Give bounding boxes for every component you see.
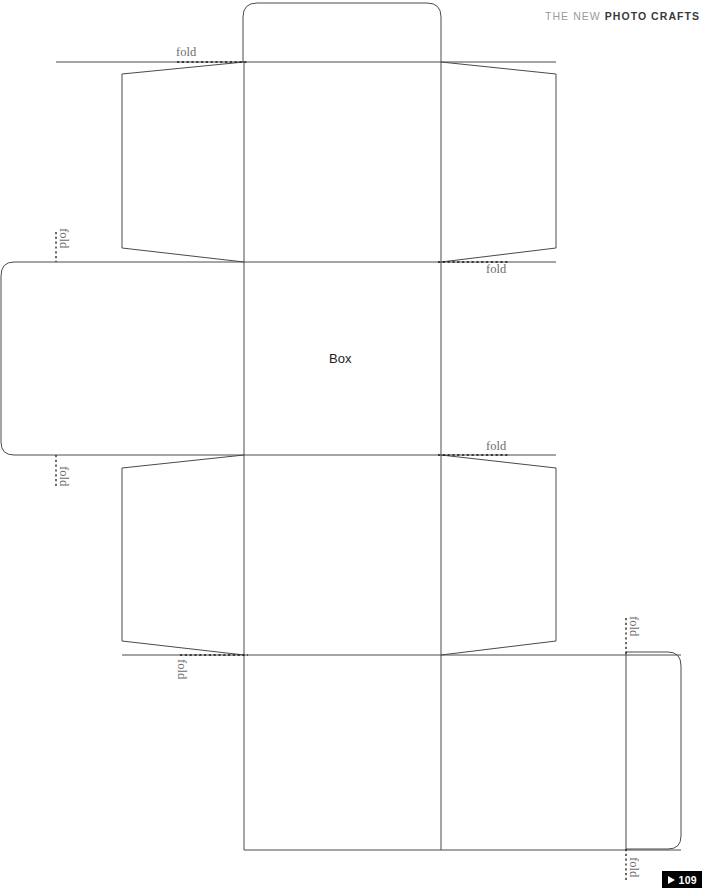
left-side-flap (1, 262, 56, 455)
upper-left-side-flap (122, 62, 244, 262)
fold-label-top-left: fold (176, 46, 196, 59)
upper-right-side-flap (441, 62, 556, 262)
play-triangle-icon (668, 876, 675, 884)
fold-label-right-upper: fold (628, 616, 641, 636)
fold-label-left-upper: fold (58, 228, 71, 248)
box-template-diagram (0, 0, 702, 888)
fold-label-mid-right: fold (486, 440, 506, 453)
bottom-right-flap (626, 652, 681, 849)
fold-label-right-lower: fold (628, 857, 641, 877)
fold-label-left-lower: fold (58, 466, 71, 486)
page-canvas: THE NEW PHOTO CRAFTS (0, 0, 702, 888)
top-flap-outline (243, 3, 441, 62)
fold-label-upper-right: fold (486, 263, 506, 276)
box-panel-label: Box (329, 352, 351, 365)
lower-right-side-flap (441, 455, 556, 655)
page-number: 109 (679, 874, 697, 886)
lower-left-side-flap (122, 455, 244, 655)
page-number-badge: 109 (662, 871, 702, 888)
fold-label-bottom-left: fold (176, 659, 189, 679)
